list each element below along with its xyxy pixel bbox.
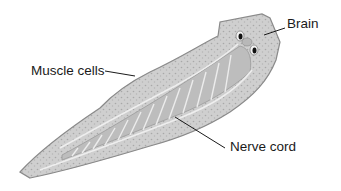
muscle-cells-leader-line	[105, 71, 135, 76]
brain-ganglia	[242, 38, 252, 46]
nerve-cord-label: Nerve cord	[230, 140, 296, 154]
muscle-cells-label: Muscle cells	[31, 64, 105, 78]
brain-label: Brain	[287, 17, 319, 31]
